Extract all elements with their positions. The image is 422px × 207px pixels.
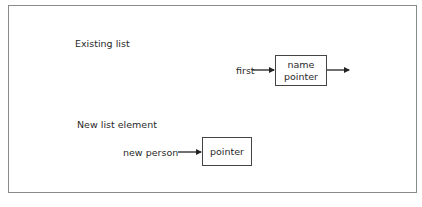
arrows-layer [0, 0, 422, 207]
